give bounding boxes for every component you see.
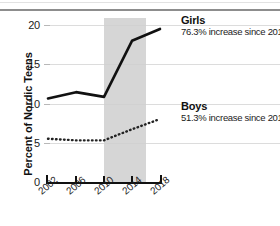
chart-figure: 20 15 10 5 0 Percent of Nordic Teens: [0, 0, 280, 226]
boys-series-detail: 51.3% increase since 2010: [181, 112, 280, 124]
boys-line: [48, 119, 160, 140]
boys-series-label: Boys: [181, 100, 280, 112]
girls-annotation: Girls 76.3% increase since 2010: [181, 14, 280, 38]
plot-area: 20 15 10 5 0 Percent of Nordic Teens: [0, 0, 280, 226]
girls-series-label: Girls: [181, 14, 280, 26]
girls-line: [48, 29, 160, 99]
girls-series-detail: 76.3% increase since 2010: [181, 26, 280, 38]
boys-annotation: Boys 51.3% increase since 2010: [181, 100, 280, 124]
